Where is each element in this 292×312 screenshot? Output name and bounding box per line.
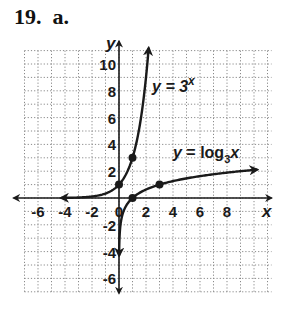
y-tick-label: 10 [99,56,116,73]
curve-logarithmic [119,170,257,256]
y-tick-label: 4 [108,136,117,153]
x-tick-label: 2 [142,203,150,220]
graph: xy-6-4-202468-6-4-2246810 y = 3xy = log3… [0,0,292,312]
y-axis-label: y [105,34,117,53]
curve-labels: y = 3xy = log3x [151,74,240,165]
label-exponential: y = 3x [151,74,196,95]
y-tick-label: 8 [108,83,116,100]
marked-points [115,154,164,202]
y-tick-label: -2 [103,217,116,234]
axes [14,41,272,293]
x-tick-label: -2 [85,203,98,220]
y-tick-label: 2 [108,163,116,180]
data-point [156,181,164,189]
label-exponential-exponent: x [187,74,196,88]
y-tick-label: -4 [103,244,117,261]
x-tick-label: 4 [169,203,178,220]
x-tick-label: 8 [223,203,231,220]
label-logarithmic: y = log3x [172,144,240,165]
data-point [129,154,137,162]
x-axis-label: x [261,202,273,221]
x-tick-label: -4 [58,203,72,220]
y-tick-label: -6 [103,270,116,287]
data-point [115,181,123,189]
data-point [129,194,137,202]
x-tick-label: -6 [31,203,44,220]
y-tick-label: 6 [108,110,116,127]
x-tick-label: 6 [196,203,204,220]
